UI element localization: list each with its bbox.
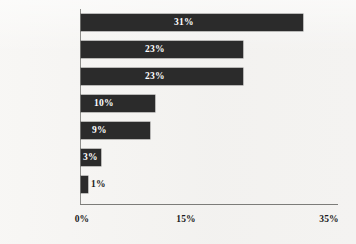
bar-value-label: 23%	[145, 70, 165, 83]
x-axis-line	[80, 204, 338, 205]
bar-value-label: 9%	[92, 124, 107, 137]
x-tick-label-2: 35%	[319, 214, 339, 224]
bar[interactable]	[81, 176, 88, 193]
bar-value-label: 1%	[91, 178, 106, 191]
horizontal-bar-chart: Individual effort 31% Honesty and integr…	[0, 0, 356, 244]
bar-value-label: 23%	[145, 43, 165, 56]
x-tick-label-1: 15%	[176, 214, 196, 224]
bar[interactable]	[81, 95, 155, 112]
bar-value-label: 31%	[174, 16, 194, 29]
x-tick-label-0: 0%	[75, 214, 90, 224]
bar-value-label: 3%	[83, 151, 98, 164]
bar-value-label: 10%	[94, 97, 114, 110]
